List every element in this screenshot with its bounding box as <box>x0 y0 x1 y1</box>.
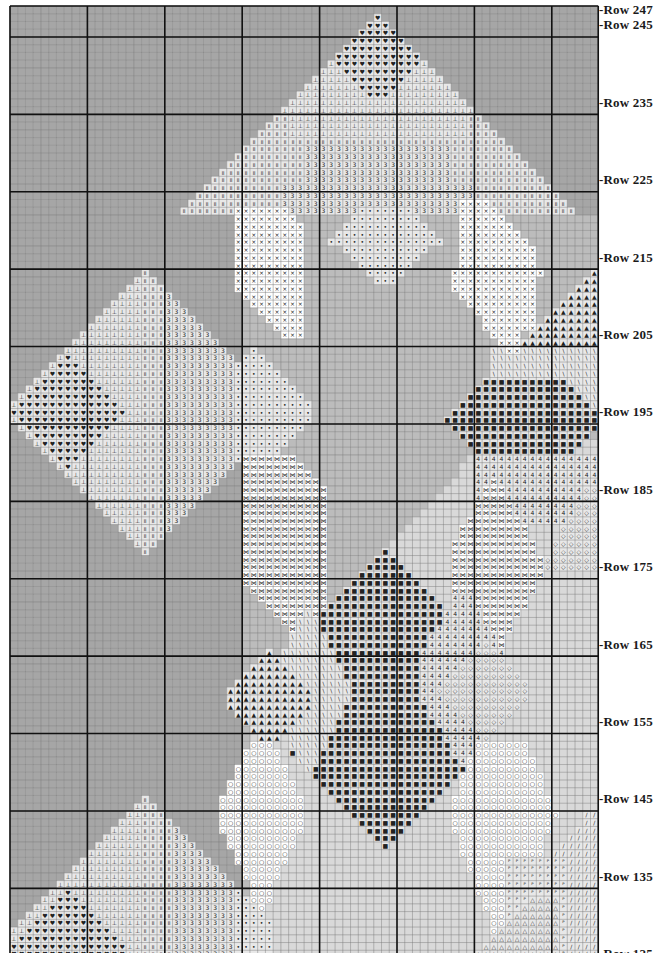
svg-text:⋈: ⋈ <box>506 571 512 578</box>
svg-text:⊥: ⊥ <box>437 84 442 91</box>
svg-text:3: 3 <box>399 169 403 176</box>
svg-text:○: ○ <box>243 780 248 787</box>
svg-text:⊥: ⊥ <box>42 896 47 903</box>
svg-text:◇: ◇ <box>468 656 473 663</box>
svg-text:×: × <box>244 277 249 284</box>
svg-text:○: ○ <box>499 796 504 803</box>
svg-text:•: • <box>368 207 372 214</box>
svg-text:॥: ॥ <box>507 192 511 199</box>
svg-text:3: 3 <box>167 331 171 338</box>
svg-text:⋈: ⋈ <box>320 517 326 524</box>
svg-text:⊥: ⊥ <box>135 819 140 826</box>
svg-text:3: 3 <box>182 370 186 377</box>
svg-text:×: × <box>499 293 504 300</box>
svg-text:⋈: ⋈ <box>506 587 512 594</box>
svg-text:॥: ॥ <box>143 850 147 857</box>
svg-text:○: ○ <box>236 765 241 772</box>
svg-text:3: 3 <box>314 153 318 160</box>
svg-text:॥: ॥ <box>159 293 163 300</box>
svg-text:■: ■ <box>367 594 373 601</box>
svg-text:⋈: ⋈ <box>475 563 481 570</box>
svg-text:■: ■ <box>390 834 396 841</box>
svg-text:♥: ♥ <box>104 393 109 400</box>
svg-text:3: 3 <box>360 153 364 160</box>
svg-text:■: ■ <box>352 718 358 725</box>
svg-text:⋈: ⋈ <box>483 556 489 563</box>
svg-text:⊥: ⊥ <box>127 858 132 865</box>
svg-text:○: ○ <box>545 803 550 810</box>
svg-text:⊥: ⊥ <box>336 84 341 91</box>
svg-text:⊥: ⊥ <box>421 130 426 137</box>
svg-text:⋈: ⋈ <box>320 494 326 501</box>
svg-text:⋈: ⋈ <box>243 563 249 570</box>
svg-text:■: ■ <box>483 385 489 392</box>
svg-text:▲: ▲ <box>259 711 264 718</box>
svg-text:⋈: ⋈ <box>243 463 249 470</box>
svg-text:×: × <box>259 277 264 284</box>
svg-text:⊥: ⊥ <box>344 107 349 114</box>
svg-text:4: 4 <box>461 649 465 656</box>
svg-text:4: 4 <box>461 726 465 733</box>
svg-text:◇: ◇ <box>515 695 520 702</box>
svg-text:◇: ◇ <box>584 517 589 524</box>
svg-text:3: 3 <box>345 176 349 183</box>
svg-text:○: ○ <box>507 749 512 756</box>
svg-text:•: • <box>260 912 264 919</box>
svg-text:○: ○ <box>476 757 481 764</box>
svg-text:◇: ◇ <box>592 525 597 532</box>
svg-text:•: • <box>298 409 302 416</box>
svg-text:×: × <box>476 238 481 245</box>
svg-text:◇: ◇ <box>476 649 481 656</box>
svg-text:॥: ॥ <box>151 865 155 872</box>
svg-text:◇: ◇ <box>468 680 473 687</box>
svg-text:⊥: ⊥ <box>112 842 117 849</box>
svg-text:3: 3 <box>174 850 178 857</box>
svg-text:3: 3 <box>422 207 426 214</box>
svg-text:॥: ॥ <box>469 130 473 137</box>
svg-text:▲: ▲ <box>267 656 272 663</box>
svg-text:4: 4 <box>445 672 449 679</box>
svg-text:■: ■ <box>383 726 389 733</box>
svg-text:•: • <box>252 447 256 454</box>
svg-text:⊥: ⊥ <box>367 99 372 106</box>
svg-text:⋈: ⋈ <box>475 587 481 594</box>
svg-text:♥: ♥ <box>96 401 101 408</box>
svg-text:3: 3 <box>430 207 434 214</box>
svg-text:▲: ▲ <box>282 726 287 733</box>
svg-text:■: ■ <box>414 718 420 725</box>
svg-text:4: 4 <box>476 463 480 470</box>
svg-text:3: 3 <box>182 463 186 470</box>
svg-text:×: × <box>251 238 256 245</box>
svg-text:॥: ॥ <box>143 370 147 377</box>
svg-text:○: ○ <box>468 803 473 810</box>
svg-text:3: 3 <box>298 200 302 207</box>
svg-text:■: ■ <box>375 649 381 656</box>
svg-text:3: 3 <box>190 943 194 950</box>
svg-text:॥: ॥ <box>151 850 155 857</box>
svg-text:■: ■ <box>328 602 334 609</box>
svg-text:3: 3 <box>190 331 194 338</box>
svg-text:▲: ▲ <box>546 316 551 323</box>
svg-text:3: 3 <box>221 378 225 385</box>
svg-text:■: ■ <box>367 695 373 702</box>
svg-text:■: ■ <box>336 757 342 764</box>
svg-text:♥: ♥ <box>73 904 78 911</box>
svg-text:3: 3 <box>368 200 372 207</box>
svg-text:⊥: ⊥ <box>360 130 365 137</box>
svg-text:×: × <box>290 254 295 261</box>
svg-text:⋈: ⋈ <box>243 579 249 586</box>
svg-text:3: 3 <box>190 324 194 331</box>
svg-text:×: × <box>530 269 535 276</box>
svg-text:♥: ♥ <box>104 424 109 431</box>
svg-text:⊥: ⊥ <box>73 354 78 361</box>
svg-text:◇: ◇ <box>561 548 566 555</box>
svg-text:○: ○ <box>236 772 241 779</box>
svg-text:॥: ॥ <box>461 176 465 183</box>
svg-text:3: 3 <box>198 873 202 880</box>
svg-text:■: ■ <box>475 432 481 439</box>
svg-text:⋈: ⋈ <box>274 486 280 493</box>
svg-text:⊥: ⊥ <box>120 424 125 431</box>
svg-text:3: 3 <box>229 896 233 903</box>
svg-text:⊥: ⊥ <box>360 115 365 122</box>
svg-text:○: ○ <box>483 889 488 896</box>
